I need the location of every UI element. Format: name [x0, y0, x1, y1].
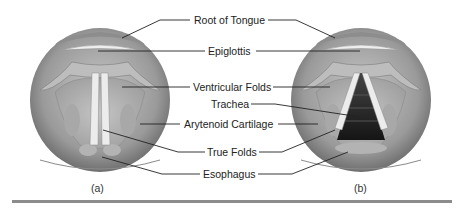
label-esophagus: Esophagus	[201, 168, 258, 180]
panel-b-illustration	[291, 28, 431, 172]
label-true-folds: True Folds	[205, 146, 259, 158]
label-trachea: Trachea	[209, 98, 251, 110]
label-arytenoid-cartilage: Arytenoid Cartilage	[182, 118, 275, 130]
larynx-diagram: Root of Tongue Epiglottis Ventricular Fo…	[0, 0, 459, 208]
panel-a-illustration	[30, 28, 170, 172]
caption-panel-a: (a)	[91, 182, 104, 194]
label-root-of-tongue: Root of Tongue	[192, 14, 267, 26]
label-ventricular-folds: Ventricular Folds	[191, 81, 273, 93]
caption-panel-b: (b)	[354, 182, 367, 194]
label-epiglottis: Epiglottis	[206, 45, 253, 57]
bottom-rule	[12, 200, 452, 203]
